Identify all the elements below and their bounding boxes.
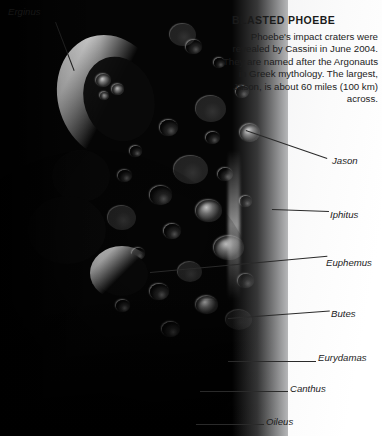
figure-title: BLASTED PHOEBE <box>232 14 335 26</box>
crater <box>112 84 124 95</box>
figure-caption: Phoebe's impact craters were revealed by… <box>222 31 378 105</box>
leader-line-canthus <box>200 391 288 392</box>
crater <box>100 92 109 100</box>
callout-label-oileus: Oileus <box>266 416 293 427</box>
figure-panel: BLASTED PHOEBE Phoebe's impact craters w… <box>0 0 382 436</box>
callout-label-euphemus: Euphemus <box>326 257 372 268</box>
callout-label-jason: Jason <box>332 155 358 166</box>
leader-line-oileus <box>196 424 264 425</box>
left-shadow <box>0 0 100 400</box>
crater <box>160 120 178 136</box>
callout-label-eurydamas: Eurydamas <box>318 352 367 363</box>
callout-label-iphitus: Iphitus <box>330 209 358 220</box>
crater <box>170 24 196 46</box>
callout-label-canthus: Canthus <box>290 383 326 394</box>
leader-line-eurydamas <box>228 361 316 362</box>
crater <box>206 132 220 144</box>
callout-label-butes: Butes <box>331 308 356 319</box>
callout-label-erginus: Erginus <box>8 6 41 17</box>
